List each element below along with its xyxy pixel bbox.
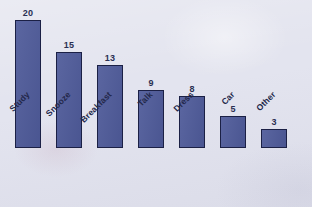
bar-value-label: 20 — [7, 8, 49, 18]
bar-value-label: 5 — [212, 104, 254, 114]
category-label: Other — [254, 89, 277, 112]
bar-value-label: 9 — [130, 78, 172, 88]
plot-area: 20 Study 15 Snooze 13 Breakfast 9 Talk 8… — [0, 0, 312, 207]
bar-value-label: 13 — [89, 53, 131, 63]
bar-rect[interactable] — [261, 129, 287, 148]
bar-rect[interactable] — [15, 20, 41, 148]
bar-rect[interactable] — [220, 116, 246, 148]
bar-value-label: 3 — [253, 117, 295, 127]
bar-value-label: 15 — [48, 40, 90, 50]
bar-chart: 20 Study 15 Snooze 13 Breakfast 9 Talk 8… — [0, 0, 312, 207]
